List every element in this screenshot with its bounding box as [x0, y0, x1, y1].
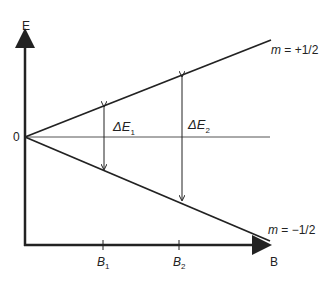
x-axis-label: B: [270, 256, 278, 268]
delta-e1-label: ΔE1: [113, 120, 135, 137]
upper-line-label: m = +1/2: [271, 44, 318, 56]
origin-label: 0: [13, 131, 20, 143]
tick-label-b2: B2: [173, 256, 185, 271]
delta-e2-label: ΔE2: [188, 118, 210, 135]
tick-label-b1: B1: [97, 256, 109, 271]
lower-level-line: [25, 137, 270, 241]
lower-line-label: m = −1/2: [268, 224, 315, 236]
upper-level-line: [25, 40, 271, 137]
y-axis-label: E: [22, 20, 30, 32]
